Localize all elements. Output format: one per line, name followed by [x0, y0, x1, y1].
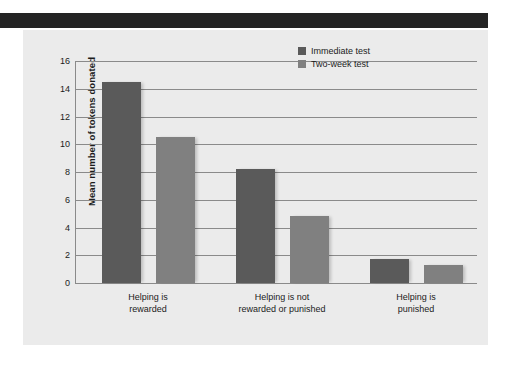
legend-swatch-2 — [298, 60, 306, 68]
category-label-line: Helping is — [396, 292, 436, 304]
category-label-line: rewarded — [128, 304, 168, 316]
category-label-2: Helping is notrewarded or punished — [238, 292, 325, 315]
plot-area: 0246810121416 Helping isrewardedHelping … — [75, 61, 477, 283]
y-tick-label-16: 16 — [60, 56, 70, 66]
y-tick-label-12: 12 — [60, 112, 70, 122]
legend-label-2: Two-week test — [311, 59, 369, 69]
category-label-3: Helping ispunished — [396, 292, 436, 315]
bar-1-2 — [156, 137, 195, 283]
category-label-line: Helping is not — [238, 292, 325, 304]
legend-label-1: Immediate test — [311, 46, 370, 56]
legend-item-1: Immediate test — [298, 44, 370, 57]
top-decorative-band — [0, 13, 488, 28]
figure-panel: Mean number of tokens donated 0246810121… — [23, 30, 488, 345]
category-label-line: punished — [396, 304, 436, 316]
bar-3-1 — [370, 259, 409, 283]
bar-3-2 — [424, 265, 463, 283]
y-tick-label-2: 2 — [65, 250, 70, 260]
category-label-line: rewarded or punished — [238, 304, 325, 316]
y-tick-label-10: 10 — [60, 139, 70, 149]
bar-2-2 — [290, 216, 329, 283]
gridline-0 — [75, 283, 477, 284]
category-label-1: Helping isrewarded — [128, 292, 168, 315]
legend-swatch-1 — [298, 47, 306, 55]
legend-item-2: Two-week test — [298, 57, 370, 70]
bar-2-1 — [236, 169, 275, 283]
y-tick-label-14: 14 — [60, 84, 70, 94]
bar-1-1 — [102, 82, 141, 283]
y-tick-label-0: 0 — [65, 278, 70, 288]
category-label-line: Helping is — [128, 292, 168, 304]
chart-legend: Immediate testTwo-week test — [298, 44, 370, 70]
y-tick-label-4: 4 — [65, 223, 70, 233]
gridline-16 — [75, 61, 477, 62]
y-tick-label-8: 8 — [65, 167, 70, 177]
y-tick-label-6: 6 — [65, 195, 70, 205]
